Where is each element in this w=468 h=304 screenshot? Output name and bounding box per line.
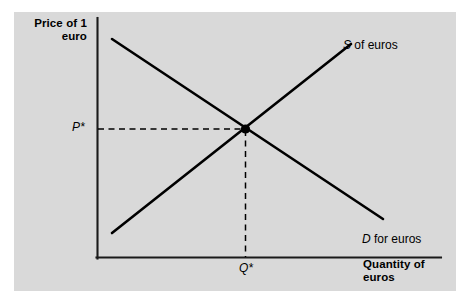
supply-curve-label-text: of euros bbox=[351, 38, 398, 52]
equilibrium-point-marker bbox=[241, 124, 250, 133]
price-equilibrium-tick-label: P* bbox=[72, 121, 85, 134]
quantity-equilibrium-tick-label: Q* bbox=[239, 262, 253, 275]
supply-curve-symbol: S bbox=[343, 38, 351, 52]
supply-curve-label: S of euros bbox=[343, 26, 398, 53]
figure-screenshot: Price of 1 euro Quantity of euros S of e… bbox=[0, 0, 468, 304]
x-axis-title: Quantity of euros bbox=[363, 258, 455, 284]
y-axis-title: Price of 1 euro bbox=[8, 17, 87, 43]
demand-curve-symbol: D bbox=[362, 232, 371, 246]
demand-curve-label-text: for euros bbox=[371, 232, 422, 246]
demand-curve-label: D for euros bbox=[362, 220, 421, 247]
supply-curve bbox=[112, 44, 351, 233]
